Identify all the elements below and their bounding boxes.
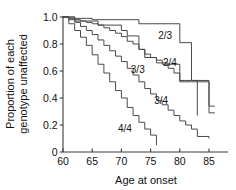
y-tick-label: 0.8 [43, 38, 58, 50]
y-axis-title-line2: genotype unaffected [17, 34, 29, 134]
x-tick-label: 70 [116, 155, 128, 167]
plot-axes [60, 16, 228, 152]
series-label-3-4: 3/4 [154, 95, 168, 106]
km-curve-4-4 [63, 17, 156, 145]
y-axis-title-line1: Proportion of each [4, 39, 16, 129]
km-curve-3-4 [63, 17, 209, 139]
x-tick-label: 60 [57, 155, 69, 167]
kaplan-meier-figure: 00.20.40.60.81.0606570758085 2/32/43/33/… [0, 0, 236, 190]
x-tick-label: 85 [203, 155, 215, 167]
series-label-4-4: 4/4 [118, 123, 132, 134]
y-tick-label: 0.2 [43, 119, 58, 131]
series-annotations: 2/32/43/33/44/4 [118, 30, 177, 135]
x-tick-label: 75 [145, 155, 157, 167]
y-tick-label: 0.4 [43, 92, 58, 104]
x-axis-title: Age at onset [115, 174, 177, 186]
axis-tick-labels: 00.20.40.60.81.0606570758085 [43, 11, 215, 167]
series-label-2-3: 2/3 [158, 30, 172, 41]
series-label-3-3: 3/3 [131, 64, 145, 75]
y-tick-label: 0.6 [43, 65, 58, 77]
plot-curves [63, 17, 215, 145]
series-label-2-4: 2/4 [163, 57, 177, 68]
km-curve-2-3 [63, 17, 215, 106]
x-tick-label: 80 [174, 155, 186, 167]
x-tick-label: 65 [86, 155, 98, 167]
survival-plot: 00.20.40.60.81.0606570758085 2/32/43/33/… [0, 0, 236, 190]
y-tick-label: 1.0 [43, 11, 58, 23]
